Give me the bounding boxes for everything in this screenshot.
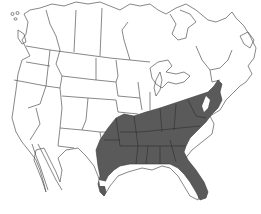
north-america-map-svg bbox=[0, 0, 261, 214]
range-map bbox=[0, 0, 261, 214]
aleutian-islands bbox=[11, 12, 19, 21]
